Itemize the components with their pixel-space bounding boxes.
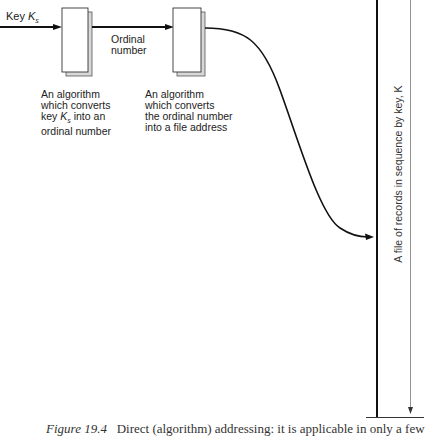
figure-caption-text: Direct (algorithm) addressing: it is app…: [117, 421, 425, 436]
input-arrowhead-icon: [53, 24, 62, 30]
box1-desc-key-prefix: key: [41, 110, 60, 122]
ordinal-number-label: Ordinal number: [111, 34, 147, 56]
box1: [62, 8, 88, 72]
sequence-arrowhead-icon: [408, 407, 413, 414]
address-arrowhead-icon: [365, 234, 374, 241]
box2-desc-line4: into a file address: [145, 122, 233, 133]
input-key-label: Key Ks: [6, 11, 39, 26]
input-key-prefix: Key: [6, 10, 28, 22]
input-key-subscript: s: [35, 17, 39, 24]
box2: [173, 8, 201, 72]
ordinal-label-line2: number: [111, 45, 147, 56]
figure-number: Figure 19.4: [46, 421, 107, 436]
box1-desc-key-suffix: into an: [71, 110, 105, 122]
figure-caption: Figure 19.4 Direct (algorithm) addressin…: [46, 421, 425, 437]
box1-desc-line3: key Ks into an: [41, 111, 111, 126]
box1-description: An algorithm which converts key Ks into …: [41, 89, 111, 137]
file-label: A file of records in sequence by key, K: [392, 74, 404, 274]
box1-desc-line4: ordinal number: [41, 126, 111, 137]
box2-description: An algorithm which converts the ordinal …: [145, 89, 233, 133]
